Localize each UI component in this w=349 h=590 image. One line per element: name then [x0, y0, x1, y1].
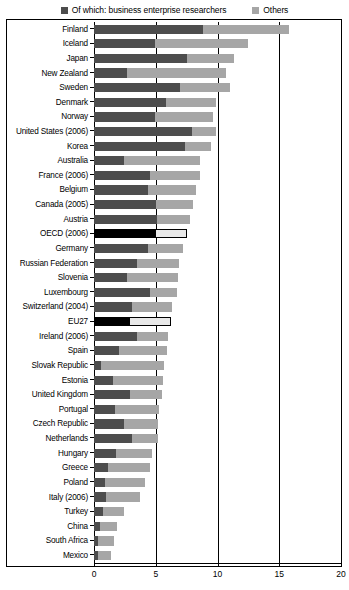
- bar-segment-business-enterprise: [94, 317, 129, 326]
- bar-segment-business-enterprise: [94, 449, 116, 458]
- bar-row: Finland: [0, 22, 349, 36]
- bar-row: OECD (2006): [0, 227, 349, 241]
- stacked-bar: [94, 390, 162, 399]
- bar-row: Poland: [0, 475, 349, 489]
- bar-segment-others: [116, 449, 152, 458]
- category-label: Slovak Republic: [0, 358, 88, 372]
- stacked-bar: [94, 317, 171, 326]
- legend-item-business-enterprise: Of which: business enterprise researcher…: [61, 6, 227, 15]
- bar-segment-others: [150, 171, 201, 180]
- bar-segment-others: [187, 54, 234, 63]
- stacked-bar: [94, 273, 178, 282]
- bar-segment-others: [192, 127, 217, 136]
- category-label: United States (2006): [0, 124, 88, 138]
- bar-segment-others: [113, 376, 164, 385]
- bar-segment-business-enterprise: [94, 98, 166, 107]
- category-label: Hungary: [0, 446, 88, 460]
- category-label: EU27: [0, 314, 88, 328]
- bar-segment-business-enterprise: [94, 200, 156, 209]
- bar-row: Norway: [0, 110, 349, 124]
- category-label: Norway: [0, 110, 88, 124]
- bar-segment-business-enterprise: [94, 419, 124, 428]
- bar-segment-business-enterprise: [94, 376, 113, 385]
- chart-legend: Of which: business enterprise researcher…: [0, 2, 349, 18]
- square-light-icon: [252, 7, 259, 14]
- x-axis-tick-label: 15: [275, 569, 284, 579]
- stacked-bar: [94, 25, 289, 34]
- stacked-bar: [94, 536, 114, 545]
- category-label: Belgium: [0, 183, 88, 197]
- bar-row: Estonia: [0, 373, 349, 387]
- x-axis-tick-label: 0: [92, 569, 97, 579]
- bar-segment-others: [127, 68, 226, 77]
- category-label: Switzerland (2004): [0, 300, 88, 314]
- bar-row: China: [0, 519, 349, 533]
- bar-segment-others: [129, 317, 171, 326]
- bar-segment-others: [155, 112, 213, 121]
- bar-row: Czech Republic: [0, 417, 349, 431]
- bar-segment-business-enterprise: [94, 492, 106, 501]
- bar-segment-others: [166, 98, 217, 107]
- bar-segment-business-enterprise: [94, 229, 155, 238]
- bar-segment-business-enterprise: [94, 405, 115, 414]
- stacked-bar: [94, 522, 117, 531]
- bar-row: South Africa: [0, 534, 349, 548]
- x-axis-tick-label: 5: [153, 569, 158, 579]
- bar-segment-others: [124, 156, 201, 165]
- bar-segment-business-enterprise: [94, 288, 150, 297]
- bar-segment-business-enterprise: [94, 54, 187, 63]
- researchers-per-thousand-employment-chart: Of which: business enterprise researcher…: [0, 0, 349, 590]
- bar-segment-others: [132, 434, 158, 443]
- category-label: Japan: [0, 51, 88, 65]
- stacked-bar: [94, 171, 200, 180]
- bar-segment-others: [180, 83, 229, 92]
- legend-label-business-enterprise: Of which: business enterprise researcher…: [72, 6, 227, 15]
- bar-row: Germany: [0, 241, 349, 255]
- bar-row: Australia: [0, 154, 349, 168]
- stacked-bar: [94, 405, 159, 414]
- bar-row: Switzerland (2004): [0, 300, 349, 314]
- bar-row: EU27: [0, 314, 349, 328]
- bar-segment-others: [98, 536, 114, 545]
- bar-row: Denmark: [0, 95, 349, 109]
- bar-row: Slovak Republic: [0, 358, 349, 372]
- stacked-bar: [94, 229, 187, 238]
- stacked-bar: [94, 68, 226, 77]
- stacked-bar: [94, 259, 179, 268]
- category-label: Slovenia: [0, 271, 88, 285]
- stacked-bar: [94, 463, 150, 472]
- bar-segment-business-enterprise: [94, 215, 157, 224]
- bar-segment-others: [148, 185, 196, 194]
- bar-row: Spain: [0, 344, 349, 358]
- bar-segment-business-enterprise: [94, 434, 132, 443]
- bar-row: United Kingdom: [0, 388, 349, 402]
- legend-item-others: Others: [252, 6, 288, 15]
- bar-row: France (2006): [0, 168, 349, 182]
- category-label: New Zealand: [0, 66, 88, 80]
- x-axis-tick: [94, 563, 95, 567]
- bar-row: Hungary: [0, 446, 349, 460]
- stacked-bar: [94, 492, 140, 501]
- stacked-bar: [94, 83, 230, 92]
- bar-row: Russian Federation: [0, 256, 349, 270]
- stacked-bar: [94, 346, 167, 355]
- bar-segment-others: [124, 419, 159, 428]
- stacked-bar: [94, 244, 183, 253]
- category-label: Ireland (2006): [0, 329, 88, 343]
- bar-segment-others: [155, 229, 187, 238]
- category-label: Russian Federation: [0, 256, 88, 270]
- bar-segment-business-enterprise: [94, 478, 105, 487]
- bar-segment-others: [119, 346, 167, 355]
- bar-segment-others: [185, 142, 211, 151]
- category-label: Australia: [0, 154, 88, 168]
- bar-segment-business-enterprise: [94, 332, 137, 341]
- category-label: Greece: [0, 461, 88, 475]
- stacked-bar: [94, 200, 193, 209]
- stacked-bar: [94, 361, 164, 370]
- bar-row: Netherlands: [0, 431, 349, 445]
- stacked-bar: [94, 39, 248, 48]
- category-label: Estonia: [0, 373, 88, 387]
- bar-segment-others: [100, 522, 117, 531]
- bar-segment-others: [157, 215, 190, 224]
- bar-row: Luxembourg: [0, 285, 349, 299]
